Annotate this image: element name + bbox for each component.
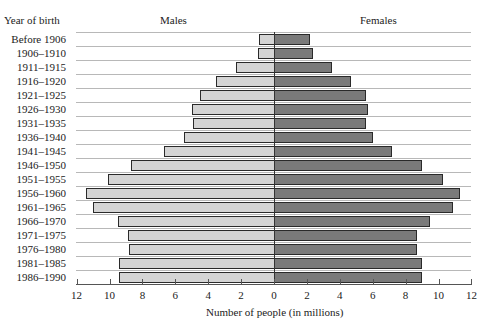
- x-tick-mark: [142, 279, 143, 285]
- bar-males: [258, 48, 274, 59]
- x-tick-label: 8: [132, 289, 152, 301]
- center-axis-line: [274, 32, 275, 284]
- x-tick-label: 12: [67, 289, 87, 301]
- bar-females: [274, 118, 366, 129]
- category-label: 1936–1940: [0, 130, 66, 144]
- x-tick-mark: [77, 279, 78, 285]
- bar-males: [236, 62, 274, 73]
- category-label: 1971–1975: [0, 228, 66, 242]
- category-label: 1981–1985: [0, 256, 66, 270]
- bar-males: [164, 146, 274, 157]
- bar-females: [274, 104, 368, 115]
- bar-males: [119, 258, 274, 269]
- bar-females: [274, 48, 313, 59]
- x-tick-mark: [110, 279, 111, 285]
- category-label: 1976–1980: [0, 242, 66, 256]
- x-tick-mark: [274, 279, 275, 285]
- x-tick-mark: [340, 279, 341, 285]
- bar-females: [274, 132, 373, 143]
- x-tick-label: 0: [264, 289, 284, 301]
- bar-females: [274, 230, 417, 241]
- bar-males: [193, 118, 274, 129]
- bar-females: [274, 174, 443, 185]
- x-tick-label: 4: [330, 289, 350, 301]
- x-tick-label: 10: [429, 289, 449, 301]
- category-label: 1986–1990: [0, 270, 66, 284]
- bar-males: [259, 34, 274, 45]
- x-tick-mark: [208, 279, 209, 285]
- x-tick-label: 12: [461, 289, 481, 301]
- males-header: Males: [160, 14, 187, 26]
- x-tick-mark: [175, 279, 176, 285]
- x-axis-title: Number of people (in millions): [206, 306, 343, 318]
- x-tick-label: 6: [165, 289, 185, 301]
- category-label: Before 1906: [0, 32, 66, 46]
- bar-females: [274, 76, 351, 87]
- category-label: 1951–1955: [0, 172, 66, 186]
- bar-females: [274, 62, 332, 73]
- x-tick-label: 4: [198, 289, 218, 301]
- bar-males: [86, 188, 274, 199]
- bar-males: [128, 230, 274, 241]
- x-tick-mark: [406, 279, 407, 285]
- x-tick-mark: [471, 279, 472, 285]
- bar-males: [200, 90, 274, 101]
- category-label: 1921–1925: [0, 88, 66, 102]
- x-tick-label: 10: [100, 289, 120, 301]
- bar-males: [129, 244, 274, 255]
- category-label: 1946–1950: [0, 158, 66, 172]
- x-tick-label: 2: [297, 289, 317, 301]
- bar-females: [274, 216, 430, 227]
- category-label: 1931–1935: [0, 116, 66, 130]
- bar-females: [274, 258, 422, 269]
- bar-males: [118, 216, 274, 227]
- bar-females: [274, 34, 310, 45]
- bar-females: [274, 90, 366, 101]
- bar-females: [274, 160, 422, 171]
- x-tick-mark: [307, 279, 308, 285]
- bar-females: [274, 244, 417, 255]
- bar-males: [192, 104, 274, 115]
- bar-males: [108, 174, 274, 185]
- category-label: 1926–1930: [0, 102, 66, 116]
- x-tick-mark: [241, 279, 242, 285]
- x-tick-mark: [439, 279, 440, 285]
- category-label: 1966–1970: [0, 214, 66, 228]
- category-label: 1956–1960: [0, 186, 66, 200]
- x-tick-label: 8: [396, 289, 416, 301]
- bar-males: [93, 202, 274, 213]
- category-label: 1961–1965: [0, 200, 66, 214]
- bar-females: [274, 146, 392, 157]
- bar-females: [274, 202, 453, 213]
- category-label: 1941–1945: [0, 144, 66, 158]
- y-axis-title: Year of birth: [4, 14, 60, 26]
- category-label: 1911–1915: [0, 60, 66, 74]
- bar-females: [274, 188, 460, 199]
- category-label: 1916–1920: [0, 74, 66, 88]
- x-tick-label: 6: [363, 289, 383, 301]
- bar-females: [274, 272, 422, 283]
- bar-males: [216, 76, 274, 87]
- x-tick-mark: [373, 279, 374, 285]
- bar-males: [184, 132, 274, 143]
- category-label: 1906–1910: [0, 46, 66, 60]
- females-header: Females: [360, 14, 397, 26]
- x-tick-label: 2: [231, 289, 251, 301]
- bar-males: [131, 160, 274, 171]
